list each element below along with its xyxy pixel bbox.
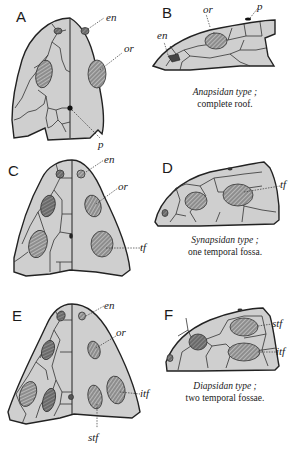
label-itf-e: itf (140, 387, 151, 399)
panel-e: E en or itf stf (8, 299, 151, 443)
panel-letter-d: D (162, 159, 173, 176)
panel-letter-b: B (162, 4, 172, 21)
temporal-fossa-d (223, 184, 253, 206)
external-naris-left-a (54, 28, 62, 34)
label-en-a: en (106, 11, 117, 23)
orbit-d (185, 192, 207, 210)
caption-f-title: Diapsidan type ; (158, 380, 292, 392)
label-tf-c: tf (140, 241, 148, 253)
label-stf-f: stf (272, 317, 284, 329)
caption-b-title: Anapsidan type ; (158, 86, 292, 98)
label-en-c: en (104, 153, 115, 165)
infratemporal-fossa-f (228, 343, 260, 361)
panel-a: A en or p (12, 8, 135, 150)
supratemporal-fossa-f (230, 318, 258, 336)
pineal-foramen-f (238, 309, 243, 312)
caption-f: Diapsidan type ; two temporal fossae. (158, 380, 292, 404)
panel-d: D tf (155, 159, 288, 226)
panel-letter-e: E (12, 307, 22, 324)
pineal-foramen-e (68, 394, 73, 399)
orbit-right-a (88, 60, 106, 88)
label-p-b: p (256, 0, 263, 12)
caption-f-sub: two temporal fossae. (158, 392, 292, 404)
panel-letter-c: C (8, 162, 19, 179)
label-en-b: en (157, 29, 168, 41)
orbit-b (205, 33, 227, 49)
orbit-f (189, 334, 207, 350)
panel-c: C en or tf (8, 153, 148, 276)
panel-b: B or p en (153, 0, 275, 70)
label-or-b: or (203, 3, 214, 15)
label-or-e: or (116, 326, 127, 338)
label-p-a: p (97, 138, 104, 150)
external-naris-left-c (56, 170, 64, 178)
pineal-foramen-a (67, 105, 72, 110)
external-naris-d (162, 210, 168, 217)
label-tf-d: tf (280, 178, 288, 190)
pineal-foramen-c (69, 233, 73, 239)
label-or-a: or (124, 42, 135, 54)
temporal-fossa-right-c (91, 231, 113, 257)
caption-b-sub: complete roof. (158, 98, 292, 110)
external-naris-right-c (77, 170, 85, 178)
caption-d-sub: one temporal fossa. (158, 246, 292, 258)
label-stf-e: stf (88, 431, 100, 443)
pineal-foramen-d (228, 168, 233, 171)
panel-letter-a: A (16, 8, 26, 25)
external-naris-f (167, 355, 173, 362)
panel-f: F stf itf (164, 306, 287, 371)
external-naris-right-e (79, 312, 86, 320)
external-naris-right-a (81, 28, 89, 35)
caption-d: Synapsidan type ; one temporal fossa. (158, 234, 292, 258)
caption-b: Anapsidan type ; complete roof. (158, 86, 292, 110)
skull-d-outline (155, 162, 279, 226)
label-itf-f: itf (276, 345, 287, 357)
label-en-e: en (104, 299, 115, 311)
caption-d-title: Synapsidan type ; (158, 234, 292, 246)
panel-letter-f: F (164, 306, 173, 323)
label-or-c: or (118, 180, 129, 192)
